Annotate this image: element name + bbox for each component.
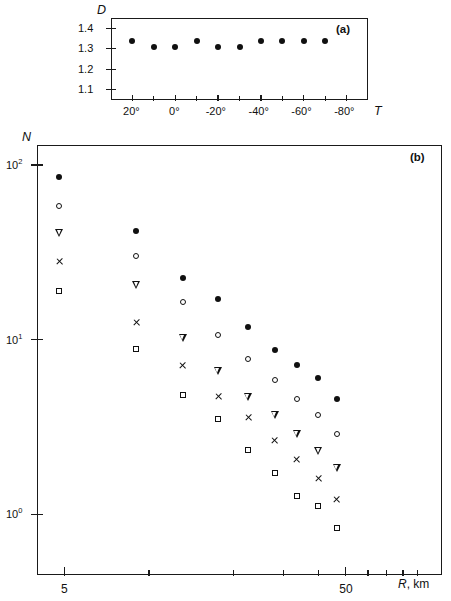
panel-b-point-open-circle	[133, 253, 139, 259]
panel-a-y-tick-label: 1.2	[78, 64, 93, 75]
panel-a-x-minor-tick	[282, 96, 283, 101]
panel-a-x-axis-label: T	[374, 105, 382, 118]
panel-b-point-cross	[245, 414, 252, 421]
panel-b-y-tick-label: 100	[6, 507, 22, 520]
panel-b-y-axis-label: N	[22, 131, 31, 144]
panel-a-point	[237, 44, 243, 50]
panel-b-point-open-square	[215, 416, 221, 422]
panel-a-x-minor-tick	[239, 96, 240, 101]
panel-b-point-filled-circle	[245, 324, 251, 330]
panel-a-y-tick-label: 1.1	[78, 84, 93, 95]
panel-a-y-tick	[106, 48, 116, 49]
triangle-inner	[57, 230, 61, 235]
panel-a-x-tick-label: -20°	[206, 106, 226, 117]
panel-b-x-axis-symbol: R	[398, 577, 407, 591]
panel-b-y-tick	[31, 339, 43, 340]
panel-b-point-filled-circle	[315, 375, 321, 381]
panel-a-y-tick	[106, 28, 116, 29]
panel-b-point-triangle-down	[244, 393, 252, 401]
panel-b-point-triangle-down	[333, 464, 341, 472]
panel-a-plot-frame	[111, 18, 368, 100]
triangle-inner	[272, 412, 276, 417]
panel-a-x-tick	[175, 95, 176, 101]
panel-a-point	[279, 38, 285, 44]
panel-b-point-cross	[333, 496, 340, 503]
panel-a-x-minor-tick	[325, 96, 326, 101]
panel-a-y-axis-label: D	[97, 4, 106, 17]
panel-b-x-tick-label: 50	[339, 583, 352, 595]
panel-b-x-minor-tick	[318, 570, 319, 576]
panel-b-y-tick	[31, 514, 43, 515]
panel-b-point-cross	[315, 475, 322, 482]
exponent: 0	[18, 506, 22, 515]
panel-b-point-filled-circle	[294, 362, 300, 368]
panel-b-y-tick-label: 102	[6, 158, 22, 171]
panel-a-x-minor-tick	[153, 96, 154, 101]
panel-b-point-open-circle	[245, 356, 251, 362]
panel-b-point-open-square	[334, 525, 340, 531]
triangle-inner	[316, 448, 320, 453]
panel-a-point	[301, 38, 307, 44]
panel-a-y-tick	[106, 89, 116, 90]
panel-b-x-minor-tick	[417, 570, 418, 576]
panel-b-point-open-square	[272, 470, 278, 476]
panel-b-y-tick	[31, 164, 43, 165]
panel-b-x-minor-tick	[283, 570, 284, 576]
exponent: 1	[18, 332, 22, 341]
panel-b-point-filled-circle	[272, 347, 278, 353]
panel-b-y-tick-label: 101	[6, 333, 22, 346]
panel-b-point-cross	[56, 258, 63, 265]
triangle-inner	[245, 394, 249, 399]
panel-b-point-cross	[179, 362, 186, 369]
panel-a-point	[194, 38, 200, 44]
panel-b-point-open-square	[180, 392, 186, 398]
panel-b-x-major-tick	[64, 567, 65, 576]
panel-b-x-minor-tick	[233, 570, 234, 576]
figure-root: D T (a) 1.11.21.31.4 20°0°-20°-40°-60°-8…	[0, 0, 451, 601]
panel-b-point-open-circle	[180, 299, 186, 305]
panel-a-point	[151, 44, 157, 50]
panel-a-x-tick	[346, 95, 347, 101]
panel-b-x-minor-tick	[386, 570, 387, 576]
panel-b-plot-frame	[37, 145, 442, 575]
panel-a-point	[172, 44, 178, 50]
panel-b-x-axis-unit: , km	[407, 577, 430, 591]
exponent: 2	[18, 157, 22, 166]
panel-b-point-triangle-down	[214, 367, 222, 375]
panel-a-x-tick-label: 0°	[169, 106, 180, 117]
panel-b-point-triangle-down	[293, 430, 301, 438]
panel-b-point-open-circle	[215, 332, 221, 338]
triangle-inner	[180, 335, 184, 340]
panel-a-x-tick-label: -80°	[334, 106, 354, 117]
panel-a-point	[322, 38, 328, 44]
panel-b-point-open-circle	[315, 412, 321, 418]
panel-b-point-filled-circle	[334, 396, 340, 402]
panel-b-point-cross	[133, 319, 140, 326]
panel-b-point-cross	[215, 393, 222, 400]
panel-a-y-tick-label: 1.4	[78, 23, 93, 34]
panel-a-x-tick	[303, 95, 304, 101]
panel-a-x-tick	[132, 95, 133, 101]
panel-b-point-open-circle	[294, 396, 300, 402]
panel-b-point-filled-circle	[215, 296, 221, 302]
panel-b-point-open-circle	[334, 431, 340, 437]
panel-b-point-triangle-down	[314, 447, 322, 455]
panel-b-x-minor-tick	[402, 570, 403, 576]
triangle-inner	[294, 431, 298, 436]
panel-a-x-minor-tick	[196, 96, 197, 101]
panel-a-y-tick-label: 1.3	[78, 43, 93, 54]
panel-a-x-tick-label: -40°	[249, 106, 269, 117]
panel-a-id-label: (a)	[336, 24, 350, 36]
triangle-inner	[215, 368, 219, 373]
panel-b-point-cross	[293, 456, 300, 463]
panel-b-point-filled-circle	[56, 174, 62, 180]
panel-b-point-triangle-down	[179, 334, 187, 342]
panel-b-point-cross	[271, 437, 278, 444]
panel-b-point-triangle-down	[55, 229, 63, 237]
panel-b-x-minor-tick	[367, 570, 368, 576]
panel-b-point-open-circle	[272, 377, 278, 383]
panel-b-point-filled-circle	[180, 275, 186, 281]
panel-a-x-tick	[260, 95, 261, 101]
panel-b-point-open-square	[56, 288, 62, 294]
panel-b-x-axis-label: R, km	[398, 578, 429, 590]
